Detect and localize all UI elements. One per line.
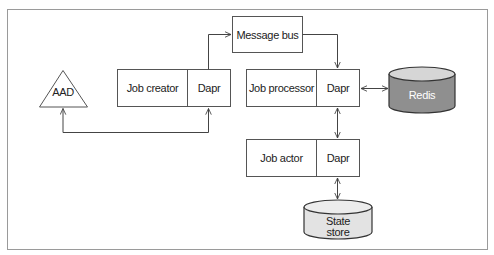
job-actor-dapr-label: Dapr (327, 152, 350, 164)
aad-node: AAD (40, 71, 88, 108)
state-store-database-node: State store (304, 200, 372, 239)
arrow-creator-to-bus (209, 35, 232, 70)
job-creator-label: Job creator (127, 82, 179, 94)
redis-database-node: Redis (389, 67, 455, 113)
job-creator-dapr-label: Dapr (198, 82, 221, 94)
message-bus-label: Message bus (236, 29, 299, 41)
job-processor-label: Job processor (249, 82, 315, 94)
job-creator-node: Job creator Dapr (118, 70, 231, 107)
state-store-label-line2: store (327, 226, 350, 238)
job-actor-label: Job actor (260, 152, 303, 164)
architecture-diagram: Message bus Job creator Dapr Job process… (0, 0, 494, 255)
job-processor-dapr-label: Dapr (327, 82, 350, 94)
redis-label: Redis (409, 89, 436, 101)
arrow-bus-to-processor (303, 35, 338, 69)
aad-label: AAD (52, 86, 74, 98)
arrow-aad-creator (63, 109, 209, 133)
message-bus-node: Message bus (233, 17, 303, 53)
job-processor-node: Job processor Dapr (247, 70, 360, 107)
job-actor-node: Job actor Dapr (247, 140, 360, 177)
